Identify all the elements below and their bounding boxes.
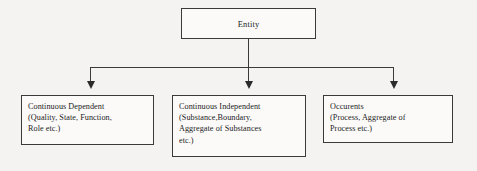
connector-horizontal-bus: [90, 67, 394, 68]
connector-root-stem: [248, 39, 249, 68]
connector-branch-stem-left: [90, 67, 91, 83]
connector-branch-stem-right: [393, 67, 394, 83]
node-occurents-label: Occurents (Process, Aggregate of Process…: [330, 101, 447, 135]
entity-taxonomy-diagram: Entity Continuous Dependent (Quality, St…: [0, 0, 477, 171]
down-arrowhead-icon-right: [390, 81, 398, 89]
node-entity: Entity: [181, 8, 316, 39]
down-arrowhead-icon-middle: [245, 81, 253, 89]
node-continuous-dependent-label: Continuous Dependent (Quality, State, Fu…: [28, 101, 148, 135]
node-continuous-dependent: Continuous Dependent (Quality, State, Fu…: [21, 95, 154, 145]
node-continuous-independent: Continuous Independent (Substance,Bounda…: [172, 95, 306, 157]
node-entity-label: Entity: [238, 19, 260, 29]
connector-branch-stem-middle: [248, 67, 249, 83]
node-occurents: Occurents (Process, Aggregate of Process…: [323, 95, 453, 143]
node-continuous-independent-label: Continuous Independent (Substance,Bounda…: [179, 101, 300, 146]
down-arrowhead-icon-left: [87, 81, 95, 89]
